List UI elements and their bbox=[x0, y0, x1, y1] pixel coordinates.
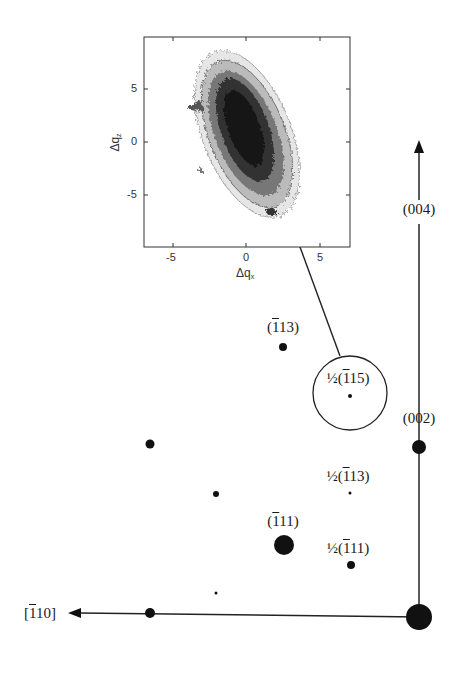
inset-ytick: 5 bbox=[131, 83, 137, 94]
label-m113: (113) bbox=[267, 320, 299, 335]
reflection-spot-000 bbox=[406, 604, 432, 630]
reflection-spot-unlabeled-b bbox=[213, 491, 219, 497]
label-half-m115: ½(115) bbox=[326, 371, 369, 386]
diffraction-diagram: -5 0 5 5 0 -5 Δqx Δqz (004) (002) (113) … bbox=[0, 0, 462, 699]
diagram-canvas bbox=[0, 0, 462, 699]
inset-ytick: 0 bbox=[131, 136, 137, 147]
inset-plot bbox=[144, 36, 350, 247]
reflection-spot--113 bbox=[279, 343, 287, 351]
reflection-spot-unlabeled-a bbox=[146, 440, 155, 449]
label-002: (002) bbox=[403, 411, 436, 426]
reflection-spot-half-113 bbox=[349, 492, 352, 495]
inset-xtick: -5 bbox=[166, 252, 176, 263]
inset-ytick: -5 bbox=[127, 189, 137, 200]
inset-xtick: 0 bbox=[243, 252, 249, 263]
reflection-spots bbox=[145, 343, 432, 630]
reflection-spot--111 bbox=[274, 535, 294, 555]
label-half-m111: ½(111) bbox=[327, 541, 370, 556]
label-m110-direction: [110] bbox=[24, 606, 56, 621]
label-half-m113: ½(113) bbox=[326, 469, 369, 484]
highlight-circle bbox=[313, 356, 387, 430]
reflection-spot-half-115 bbox=[348, 394, 352, 398]
reflection-spot-unlabeled-d bbox=[145, 608, 155, 618]
reflection-spot-half-111 bbox=[347, 561, 355, 569]
inset-xtick: 5 bbox=[317, 252, 323, 263]
arrowhead-110-icon bbox=[68, 608, 81, 618]
arrowhead-004-icon bbox=[414, 140, 424, 153]
horizontal-axis bbox=[68, 608, 419, 618]
inset-xlabel: Δqx bbox=[236, 267, 254, 280]
label-m111: (111) bbox=[267, 514, 298, 529]
inset-ylabel: Δqz bbox=[109, 133, 122, 151]
reflection-spot-unlabeled-c bbox=[215, 592, 218, 595]
label-004: (004) bbox=[403, 202, 436, 217]
reflection-spot-002 bbox=[412, 440, 426, 454]
